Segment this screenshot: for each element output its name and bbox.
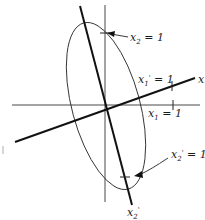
label-rotated-x2prime-axis: x2' bbox=[127, 206, 140, 220]
ellipse-rotation-diagram: x2 = 1 x1' = 1 x1 = 1 x2' = 1 x x2' bbox=[0, 0, 205, 220]
rotated-axis-x2prime bbox=[80, 6, 132, 205]
arrowhead-icon bbox=[134, 171, 143, 178]
label-x2-eq-1: x2 = 1 bbox=[130, 31, 164, 46]
label-x2prime-eq-1: x2' = 1 bbox=[171, 148, 205, 163]
label-x1-eq-1: x1 = 1 bbox=[148, 107, 182, 122]
label-rotated-x-axis: x bbox=[198, 73, 205, 86]
label-x1prime-eq-1: x1' = 1 bbox=[138, 73, 174, 88]
